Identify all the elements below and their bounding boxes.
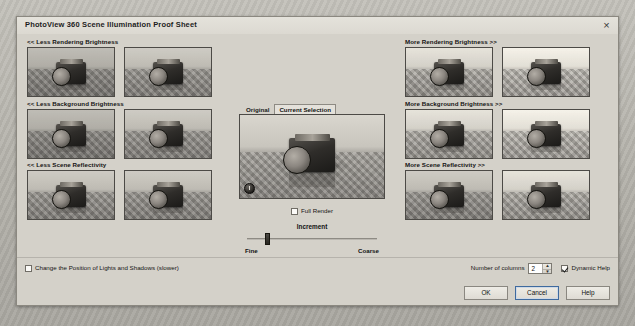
thumb-more-rendering-1[interactable] — [405, 47, 493, 97]
current-selection-preview[interactable] — [239, 114, 385, 199]
scene-object — [531, 124, 561, 146]
dynamic-help-label: Dynamic Help — [571, 265, 610, 271]
thumb-row-more-scene-reflectivity — [405, 170, 590, 220]
group-label-more-rendering-brightness: More Rendering Brightness >> — [405, 38, 590, 45]
thumb-more-background-2[interactable] — [502, 109, 590, 159]
footer-button-row: OK Cancel Help — [464, 286, 610, 300]
number-of-columns-label: Number of columns — [471, 265, 525, 271]
full-render-row: Full Render — [239, 208, 385, 215]
preview-tabs: Original Current Selection — [239, 102, 385, 114]
number-of-columns-input[interactable]: 2 — [529, 264, 542, 273]
group-less-rendering-brightness: << Less Rendering Brightness — [27, 38, 212, 97]
thumb-more-reflectivity-2[interactable] — [502, 170, 590, 220]
number-of-columns-stepper[interactable]: 2 ▲ ▼ — [528, 263, 552, 274]
increment-slider[interactable] — [239, 233, 385, 245]
tab-original[interactable]: Original — [241, 104, 274, 114]
lights-shadows-checkbox[interactable] — [25, 265, 32, 272]
lights-shadows-label: Change the Position of Lights and Shadow… — [35, 265, 179, 271]
group-label-more-scene-reflectivity: More Scene Reflectivity >> — [405, 161, 590, 168]
cancel-button[interactable]: Cancel — [515, 286, 559, 300]
thumb-less-reflectivity-1[interactable] — [124, 170, 212, 220]
thumb-row-less-rendering-brightness — [27, 47, 212, 97]
full-render-checkbox[interactable] — [291, 208, 298, 215]
scene-object — [56, 185, 86, 207]
ok-button[interactable]: OK — [464, 286, 508, 300]
full-render-label: Full Render — [301, 208, 333, 214]
scene-object — [153, 62, 183, 84]
scene-object — [153, 124, 183, 146]
thumb-row-less-background-brightness — [27, 109, 212, 159]
thumb-less-background-1[interactable] — [124, 109, 212, 159]
footer-right-options: Number of columns 2 ▲ ▼ Dynamic Help — [471, 263, 610, 274]
scene-object — [531, 185, 561, 207]
scene-object — [531, 62, 561, 84]
scene-object — [56, 62, 86, 84]
proof-sheet-dialog: PhotoView 360 Scene Illumination Proof S… — [16, 16, 619, 306]
dialog-body: << Less Rendering Brightness << Less Bac… — [17, 34, 618, 305]
close-icon[interactable]: × — [599, 18, 614, 32]
group-label-less-scene-reflectivity: << Less Scene Reflectivity — [27, 161, 212, 168]
group-less-scene-reflectivity: << Less Scene Reflectivity — [27, 161, 212, 220]
thumb-row-more-background-brightness — [405, 109, 590, 159]
thumb-less-background-2[interactable] — [27, 109, 115, 159]
thumb-more-rendering-2[interactable] — [502, 47, 590, 97]
footer-options-row: Change the Position of Lights and Shadow… — [25, 263, 610, 274]
scene-object — [434, 124, 464, 146]
dialog-title: PhotoView 360 Scene Illumination Proof S… — [25, 20, 197, 29]
group-more-scene-reflectivity: More Scene Reflectivity >> — [405, 161, 590, 220]
thumb-more-background-1[interactable] — [405, 109, 493, 159]
footer-divider — [17, 257, 618, 258]
slider-max-label: Coarse — [358, 247, 379, 254]
scene-object — [434, 62, 464, 84]
help-button[interactable]: Help — [566, 286, 610, 300]
scene-object — [289, 138, 335, 172]
thumb-more-reflectivity-1[interactable] — [405, 170, 493, 220]
scene-object — [153, 185, 183, 207]
number-of-columns-group: Number of columns 2 ▲ ▼ — [471, 263, 553, 274]
slider-min-label: Fine — [245, 247, 258, 254]
group-less-background-brightness: << Less Background Brightness — [27, 100, 212, 159]
stepper-buttons: ▲ ▼ — [542, 264, 551, 273]
chevron-down-icon[interactable]: ▼ — [543, 270, 551, 275]
slider-end-labels: Fine Coarse — [239, 245, 385, 254]
thumb-less-rendering-2[interactable] — [27, 47, 115, 97]
group-label-more-background-brightness: More Background Brightness >> — [405, 100, 590, 107]
thumb-less-rendering-1[interactable] — [124, 47, 212, 97]
group-more-background-brightness: More Background Brightness >> — [405, 100, 590, 159]
center-preview-panel: Original Current Selection Full Render I… — [239, 102, 385, 254]
dialog-titlebar[interactable]: PhotoView 360 Scene Illumination Proof S… — [17, 17, 618, 34]
slider-thumb[interactable] — [265, 233, 270, 245]
group-label-less-background-brightness: << Less Background Brightness — [27, 100, 212, 107]
dynamic-help-option: Dynamic Help — [561, 265, 610, 272]
dynamic-help-checkbox[interactable] — [561, 265, 568, 272]
dialog-footer: Change the Position of Lights and Shadow… — [17, 257, 618, 305]
group-label-less-rendering-brightness: << Less Rendering Brightness — [27, 38, 212, 45]
lights-shadows-option: Change the Position of Lights and Shadow… — [25, 265, 179, 272]
thumb-row-less-scene-reflectivity — [27, 170, 212, 220]
group-more-rendering-brightness: More Rendering Brightness >> — [405, 38, 590, 97]
thumb-less-reflectivity-2[interactable] — [27, 170, 115, 220]
thumb-row-more-rendering-brightness — [405, 47, 590, 97]
scene-object — [434, 185, 464, 207]
scene-object — [56, 124, 86, 146]
increment-label: Increment — [239, 223, 385, 230]
timer-icon — [244, 183, 255, 194]
